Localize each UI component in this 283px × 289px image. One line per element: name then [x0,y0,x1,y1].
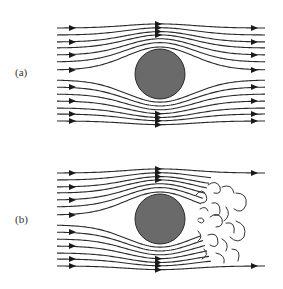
flow-arrow-icon [251,39,258,45]
flow-arrow-icon [251,118,258,124]
flow-arrow-icon [69,170,76,176]
flow-arrow-icon [251,52,258,58]
flow-arrow-icon [69,98,76,104]
cylinder-obstacle [135,49,185,99]
wake-eddy [208,182,220,193]
flow-arrow-icon [69,84,76,90]
flow-arrow-icon [69,256,76,262]
flow-arrow-icon [69,39,76,45]
streamline [57,246,207,259]
wake-eddy [212,203,220,216]
flow-arrow-icon [251,84,258,90]
wake-eddy [198,218,204,223]
flow-arrow-icon [69,25,76,31]
wake-eddy [222,239,227,251]
turbulent-wake-diagram [0,145,283,289]
flow-arrow-icon [251,170,258,176]
wake-eddy [234,193,246,211]
wake-eddy [224,207,229,221]
streamline [57,188,203,207]
laminar-flow-diagram [0,0,283,145]
cylinder-obstacle [135,194,185,244]
streamline [57,121,265,125]
wake-eddy [208,234,218,247]
flow-arrow-icon [69,197,76,203]
wake-eddy [200,207,208,211]
panel-a-laminar-flow: (a) [0,0,283,145]
flow-arrow-icon [69,212,76,218]
wake-eddy [232,249,239,261]
flow-arrow-icon [251,67,258,73]
streamline [57,101,265,114]
wake-eddy [226,223,234,233]
flow-arrow-icon [69,111,76,117]
flow-arrow-icon [69,229,76,235]
flow-arrow-icon [69,184,76,190]
streamline [57,32,265,42]
flow-arrow-icon [69,67,76,73]
flow-arrow-icon [155,122,162,128]
flow-arrow-icon [155,267,162,273]
streamline [57,177,209,187]
flow-arrow-icon [69,118,76,124]
flow-arrow-icon [69,263,76,269]
streamline [57,232,203,251]
flow-arrow-icon [69,52,76,58]
flow-arrow-icon [251,25,258,31]
flow-arrow-icon [69,243,76,249]
streamline [57,253,209,262]
flow-arrow-icon [251,98,258,104]
flow-arrow-icon [251,111,258,117]
wake-eddy [210,214,222,227]
wake-eddy [222,186,234,193]
streamline [57,266,265,270]
panel-b-turbulent-wake: (b) [0,145,283,289]
flow-arrow-icon [251,263,258,269]
wake-eddy [216,253,224,263]
